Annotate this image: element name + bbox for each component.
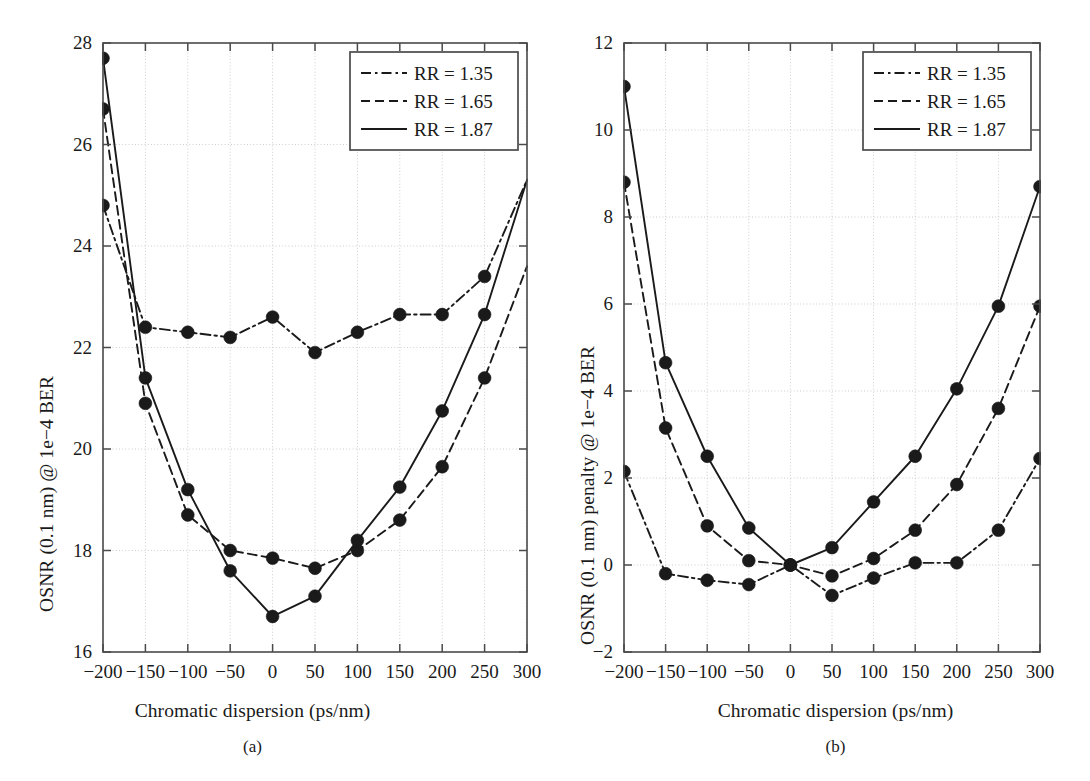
x-tick-label: −50 [215, 661, 245, 683]
y-tick-label: 10 [545, 119, 613, 141]
data-point-marker [309, 346, 322, 359]
legend-label: RR = 1.65 [414, 91, 493, 112]
x-tick-label: 100 [859, 661, 888, 683]
data-point-marker [867, 496, 880, 509]
data-point-marker [742, 578, 755, 591]
legend-label: RR = 1.87 [927, 119, 1006, 140]
legend-label: RR = 1.65 [927, 91, 1006, 112]
legend: RR = 1.35RR = 1.65RR = 1.87 [863, 52, 1031, 150]
data-point-marker [224, 544, 237, 557]
subcaption-a: (a) [0, 737, 525, 757]
panel-a: RR = 1.35RR = 1.65RR = 1.87 OSNR (0.1 nm… [0, 0, 545, 781]
data-point-marker [266, 610, 279, 623]
data-point-marker [351, 534, 364, 547]
data-point-marker [992, 524, 1005, 537]
x-tick-label: −100 [688, 661, 727, 683]
data-point-marker [224, 331, 237, 344]
data-point-marker [826, 541, 839, 554]
y-tick-label: 6 [545, 293, 613, 315]
x-tick-label: 0 [786, 661, 796, 683]
data-point-marker [139, 397, 152, 410]
x-tick-label: 150 [386, 661, 415, 683]
y-tick-label: 24 [0, 235, 92, 257]
data-point-marker [224, 564, 237, 577]
data-point-marker [393, 308, 406, 321]
data-point-marker [992, 300, 1005, 313]
data-point-marker [659, 422, 672, 435]
data-point-marker [950, 556, 963, 569]
data-point-marker [992, 402, 1005, 415]
legend-label: RR = 1.87 [414, 119, 493, 140]
data-point-marker [436, 308, 449, 321]
data-point-marker [478, 372, 491, 385]
y-tick-label: 2 [545, 467, 613, 489]
data-point-marker [826, 589, 839, 602]
x-tick-label: 250 [470, 661, 499, 683]
y-tick-label: −2 [545, 641, 613, 663]
data-point-marker [351, 326, 364, 339]
y-tick-label: 22 [0, 337, 92, 359]
y-tick-label: 16 [0, 641, 92, 663]
data-point-marker [742, 522, 755, 535]
y-tick-label: 12 [545, 32, 613, 54]
data-point-marker [867, 552, 880, 565]
legend-label: RR = 1.35 [414, 63, 493, 84]
x-tick-label: 200 [428, 661, 457, 683]
x-tick-label: −150 [646, 661, 685, 683]
y-tick-label: 4 [545, 380, 613, 402]
x-tick-label: 100 [343, 661, 372, 683]
x-tick-label: 200 [943, 661, 972, 683]
legend: RR = 1.35RR = 1.65RR = 1.87 [350, 52, 518, 150]
data-point-marker [659, 567, 672, 580]
x-axis-label-a: Chromatic dispersion (ps/nm) [0, 700, 525, 722]
data-point-marker [139, 321, 152, 334]
y-tick-label: 28 [0, 32, 92, 54]
y-axis-label-a: OSNR (0.1 nm) @ 1e−4 BER [36, 376, 58, 612]
data-point-marker [867, 572, 880, 585]
data-point-marker [181, 509, 194, 522]
data-point-marker [659, 356, 672, 369]
x-tick-label: −200 [604, 661, 643, 683]
x-tick-label: 0 [268, 661, 278, 683]
y-tick-label: 0 [545, 554, 613, 576]
y-tick-label: 18 [0, 540, 92, 562]
data-point-marker [266, 311, 279, 324]
panel-b: RR = 1.35RR = 1.65RR = 1.87 OSNR (0.1 nm… [545, 0, 1090, 781]
data-point-marker [826, 569, 839, 582]
x-tick-label: 250 [984, 661, 1013, 683]
data-point-marker [309, 562, 322, 575]
subcaption-b: (b) [563, 737, 1090, 757]
data-point-marker [701, 574, 714, 587]
x-tick-label: −50 [734, 661, 764, 683]
x-tick-label: 300 [1026, 661, 1055, 683]
data-point-marker [909, 524, 922, 537]
x-tick-label: 300 [513, 661, 542, 683]
legend-label: RR = 1.35 [927, 63, 1006, 84]
data-point-marker [266, 552, 279, 565]
data-point-marker [309, 590, 322, 603]
x-tick-label: 50 [823, 661, 842, 683]
x-axis-label-b: Chromatic dispersion (ps/nm) [563, 700, 1090, 722]
data-point-marker [393, 514, 406, 527]
data-point-marker [909, 450, 922, 463]
y-tick-label: 8 [545, 206, 613, 228]
x-tick-label: −100 [168, 661, 207, 683]
data-point-marker [181, 483, 194, 496]
data-point-marker [478, 308, 491, 321]
data-point-marker [742, 554, 755, 567]
x-tick-label: 150 [901, 661, 930, 683]
data-point-marker [950, 478, 963, 491]
y-tick-label: 20 [0, 438, 92, 460]
data-point-marker [436, 405, 449, 418]
figure-container: RR = 1.35RR = 1.65RR = 1.87 OSNR (0.1 nm… [0, 0, 1090, 781]
data-point-marker [701, 519, 714, 532]
data-point-marker [784, 559, 797, 572]
x-tick-label: −200 [83, 661, 122, 683]
data-point-marker [478, 270, 491, 283]
x-tick-label: −150 [126, 661, 165, 683]
x-tick-label: 50 [306, 661, 325, 683]
data-point-marker [909, 556, 922, 569]
data-point-marker [181, 326, 194, 339]
data-point-marker [393, 481, 406, 494]
y-tick-label: 26 [0, 134, 92, 156]
